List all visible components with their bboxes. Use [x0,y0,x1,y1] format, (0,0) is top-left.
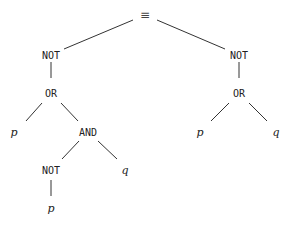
tree-node-or-l: OR [45,88,58,99]
tree-node-root: ≡ [140,8,150,22]
tree-node-not-l: NOT [42,50,60,61]
tree-node-not-r: NOT [230,50,248,61]
tree-node-q-1: q [121,164,128,177]
tree-node-p-1: p [10,126,17,139]
tree-edge [26,103,42,121]
tree-edge [98,141,117,159]
tree-edge [61,103,78,121]
expression-tree: ≡NOTORpANDNOTqpNOTORpq [0,0,291,230]
tree-node-or-r: OR [233,88,246,99]
tree-edges [26,20,267,196]
tree-edge [249,103,267,121]
tree-node-p-2: p [47,202,54,215]
tree-edge [62,141,79,159]
tree-edge [211,103,229,121]
tree-edge [64,20,133,49]
tree-node-q-2: q [272,126,279,139]
tree-node-not-inner: NOT [42,165,60,176]
tree-edge [157,20,225,49]
tree-node-p-3: p [196,126,203,139]
tree-node-and: AND [79,127,97,138]
